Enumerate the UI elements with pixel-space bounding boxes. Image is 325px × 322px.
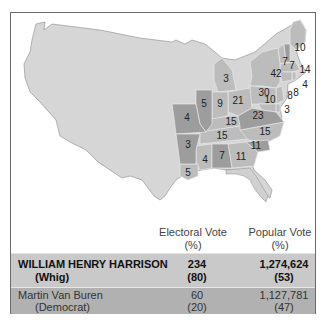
label-alabama: 7 bbox=[219, 150, 225, 161]
state-delaware bbox=[276, 104, 280, 112]
label-ohio: 21 bbox=[232, 95, 244, 106]
label-massachusetts: 14 bbox=[299, 64, 311, 75]
label-arkansas: 3 bbox=[185, 139, 191, 150]
state-rhode-island bbox=[292, 72, 296, 80]
popular-votes: 1,274,624 bbox=[249, 258, 319, 271]
popular-header-label: Popular Vote bbox=[245, 226, 315, 239]
popular-vote-header: Popular Vote (%) bbox=[245, 226, 315, 252]
popular-pct: (47) bbox=[249, 301, 319, 314]
label-illinois: 5 bbox=[201, 98, 207, 109]
label-connecticut: 8 bbox=[293, 87, 299, 98]
label-louisiana: 5 bbox=[185, 167, 191, 178]
table-row-harrison: WILLIAM HENRY HARRISON (Whig) 234 (80) 1… bbox=[11, 253, 315, 287]
label-virginia: 23 bbox=[252, 110, 264, 121]
label-new-jersey: 8 bbox=[287, 90, 293, 101]
label-vermont: 7 bbox=[282, 56, 288, 67]
popular-header-pct: (%) bbox=[245, 239, 315, 252]
label-indiana: 9 bbox=[217, 98, 223, 109]
candidate-party: (Whig) bbox=[35, 271, 69, 284]
candidate-name: WILLIAM HENRY HARRISON bbox=[18, 258, 168, 271]
electoral-pct: (80) bbox=[177, 271, 217, 284]
state-connecticut bbox=[280, 72, 292, 82]
label-south-carolina: 11 bbox=[251, 140, 262, 151]
electoral-votes: 234 bbox=[177, 258, 217, 271]
label-new-hampshire: 7 bbox=[289, 60, 295, 71]
label-mississippi: 4 bbox=[202, 154, 208, 165]
label-missouri: 4 bbox=[184, 112, 190, 123]
label-georgia: 11 bbox=[236, 151, 247, 162]
label-tennessee: 15 bbox=[216, 130, 228, 141]
label-north-carolina: 15 bbox=[259, 126, 271, 137]
candidate-party: (Democrat) bbox=[35, 301, 90, 314]
electoral-header-pct: (%) bbox=[148, 239, 238, 252]
electoral-pct: (20) bbox=[177, 301, 217, 314]
label-rhode-island: 4 bbox=[302, 79, 308, 90]
label-delaware: 3 bbox=[284, 104, 290, 115]
electoral-vote-header: Electoral Vote (%) bbox=[148, 226, 238, 252]
popular-pct: (53) bbox=[249, 271, 319, 284]
label-maine: 10 bbox=[294, 42, 306, 53]
label-kentucky: 15 bbox=[225, 116, 237, 127]
label-maryland: 10 bbox=[264, 94, 276, 105]
label-michigan: 3 bbox=[223, 73, 229, 84]
table-row-van-buren: Martin Van Buren (Democrat) 60 (20) 1,12… bbox=[11, 287, 315, 314]
electoral-header-label: Electoral Vote bbox=[148, 226, 238, 239]
label-new-york: 42 bbox=[270, 68, 282, 79]
